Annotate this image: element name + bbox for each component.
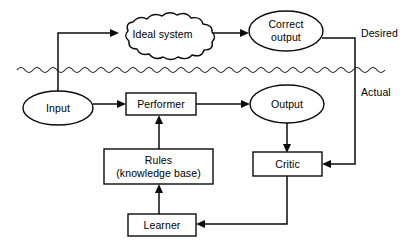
node-shape-critic[interactable] (253, 152, 322, 176)
arrowhead-learner-to-rules (155, 184, 163, 193)
arrowhead-input-to-performer (117, 100, 126, 108)
node-shape-learner[interactable] (128, 214, 196, 236)
edge-correct-output-to-critic (322, 38, 355, 164)
diagram-canvas: Ideal system Correct output Input Perfor… (0, 0, 416, 249)
arrowhead-rules-to-performer (155, 115, 163, 124)
diagram-graphics (0, 0, 416, 249)
region-label-actual: Actual (361, 86, 391, 98)
region-label-desired: Desired (361, 27, 398, 39)
node-shape-input[interactable] (23, 91, 93, 125)
node-shape-rules[interactable] (104, 149, 213, 184)
edge-critic-to-learner (205, 176, 287, 224)
node-shape-ideal-system[interactable] (126, 13, 215, 60)
arrowhead-ideal-system-to-correct-output (240, 29, 249, 37)
arrowhead-correct-output-to-critic (322, 160, 331, 168)
arrowhead-critic-to-learner (196, 220, 205, 228)
node-shape-correct-output[interactable] (249, 11, 323, 51)
desired-actual-separator (17, 68, 385, 73)
arrowhead-input-to-ideal-system (110, 29, 119, 37)
node-shape-output[interactable] (250, 85, 324, 123)
node-shape-performer[interactable] (126, 93, 196, 115)
arrowhead-performer-to-output (241, 100, 250, 108)
